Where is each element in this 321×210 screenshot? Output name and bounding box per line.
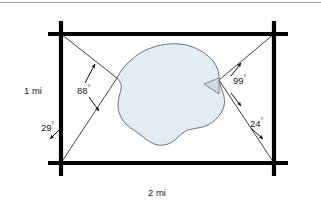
angle-29-label: 29°	[41, 121, 54, 133]
sightline-topright-to-east	[219, 34, 274, 80]
angle-29-value: 29	[41, 122, 52, 133]
angle-88-value: 88	[77, 85, 88, 96]
vertical-dimension-label: 1 mi	[24, 86, 42, 96]
angle-24-label: 24°	[250, 117, 263, 129]
angle-24-value: 24	[250, 118, 261, 129]
arrow-88-lower	[89, 97, 99, 111]
sightline-topleft-to-west	[61, 34, 117, 78]
lake-survey-figure: 1 mi 2 mi 88° 29° 99° 24°	[0, 0, 321, 210]
degree-symbol-24: °	[261, 117, 264, 124]
arrow-99-lower	[231, 93, 241, 106]
degree-symbol-29: °	[52, 121, 55, 128]
angle-99-value: 99	[233, 75, 244, 86]
angle-99-label: 99°	[233, 74, 246, 86]
horizontal-dimension-label: 2 mi	[148, 188, 166, 198]
lake-shape	[117, 44, 225, 146]
survey-diagram	[0, 0, 321, 210]
degree-symbol-99: °	[244, 74, 247, 81]
degree-symbol-88: °	[88, 84, 91, 91]
angle-88-label: 88°	[77, 84, 90, 96]
sightline-bottomright-to-east	[219, 80, 274, 163]
lake-group	[117, 44, 225, 146]
arrow-88-upper	[85, 64, 95, 83]
